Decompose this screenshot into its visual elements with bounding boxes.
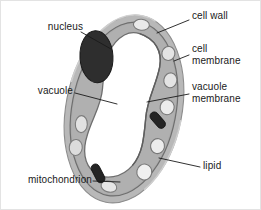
label-vacuole: vacuole — [25, 85, 73, 97]
label-lipid: lipid — [203, 160, 247, 172]
label-vacuole-membrane: vacuole membrane — [192, 81, 260, 104]
label-nucleus: nucleus — [37, 21, 83, 33]
label-mitochondrion: mitochondrion — [10, 174, 92, 186]
diagram-page: nucleus vacuole mitochondrion cell wall … — [0, 0, 261, 210]
label-cell-wall: cell wall — [192, 10, 258, 22]
label-cell-membrane: cell membrane — [192, 43, 260, 66]
lipid-droplet — [75, 115, 88, 133]
